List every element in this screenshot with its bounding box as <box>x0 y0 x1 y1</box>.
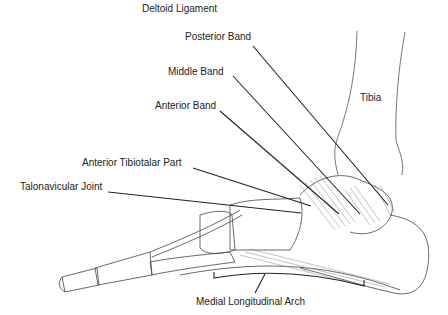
label-medial-longitudinal-arch: Medial Longitudinal Arch <box>196 296 305 308</box>
label-anterior-band: Anterior Band <box>155 100 216 112</box>
label-middle-band: Middle Band <box>168 66 224 78</box>
deltoid-ligament-diagram: Deltoid Ligament Posterior Band Middle B… <box>0 0 448 315</box>
diagram-title: Deltoid Ligament <box>142 3 217 15</box>
label-anterior-tibiotalar-part: Anterior Tibiotalar Part <box>82 157 182 169</box>
label-posterior-band: Posterior Band <box>185 31 251 43</box>
label-tibia: Tibia <box>360 92 381 104</box>
foot-illustration <box>0 0 448 315</box>
label-talonavicular-joint: Talonavicular Joint <box>20 181 102 193</box>
